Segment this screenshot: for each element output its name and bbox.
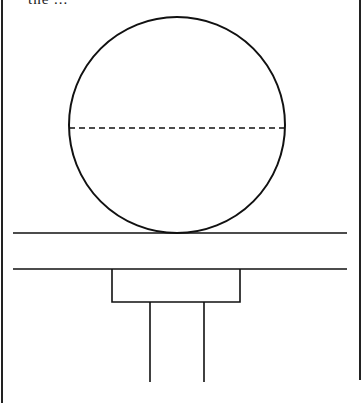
ball-circle — [69, 17, 285, 233]
ball-on-stand-diagram — [0, 0, 362, 403]
support-bracket — [112, 269, 240, 302]
